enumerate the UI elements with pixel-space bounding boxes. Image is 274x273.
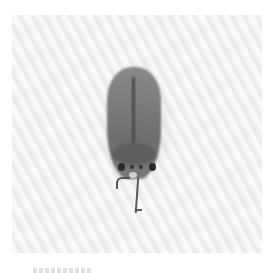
insect-ocellus (139, 165, 143, 169)
insect-photo (12, 15, 262, 253)
insect-face (129, 172, 137, 178)
insect-eye-left (118, 163, 125, 171)
insect-eye-right (149, 163, 156, 171)
insect-ocellus (130, 165, 134, 169)
insect-leg-left (116, 177, 130, 189)
insect-thorax (112, 143, 156, 165)
clipped-caption (33, 268, 91, 273)
wing-seam (132, 77, 135, 149)
insect-foot (136, 209, 142, 211)
